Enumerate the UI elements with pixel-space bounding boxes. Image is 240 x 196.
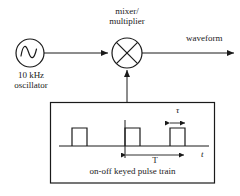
pulse-train-waveform xyxy=(72,128,185,146)
mixer-label-line2: multiplier xyxy=(109,16,145,26)
sine-wave-source-icon xyxy=(16,39,44,67)
time-axis-label: t xyxy=(201,149,204,159)
oscillator-label-line2: oscillator xyxy=(14,80,48,90)
output-waveform-label: waveform xyxy=(186,33,222,43)
mixer-label-line1: mixer/ xyxy=(115,6,139,16)
mixer-label: mixer/ multiplier xyxy=(97,6,157,27)
mixer-multiplier-icon xyxy=(112,38,142,68)
period-label: T xyxy=(147,155,163,165)
oscillator-label-line1: 10 kHz xyxy=(18,70,44,80)
oscillator-label: 10 kHz oscillator xyxy=(0,70,62,91)
pulse-train-caption: on-off keyed pulse train xyxy=(50,166,215,176)
tau-label: τ xyxy=(170,105,185,115)
diagram-canvas: 10 kHz oscillator mixer/ multiplier wave… xyxy=(0,0,240,196)
